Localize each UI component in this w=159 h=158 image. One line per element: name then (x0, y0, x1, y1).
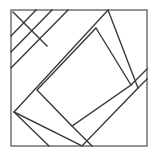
geometric-line-figure: geometric-line-figure Square frame subdi… (0, 0, 159, 158)
figure-canvas: geometric-line-figure Square frame subdi… (0, 0, 159, 158)
